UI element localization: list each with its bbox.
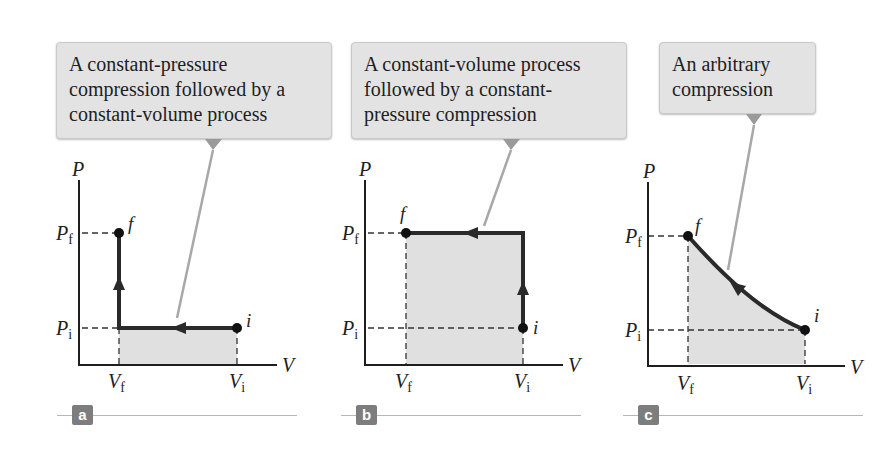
point-i bbox=[800, 325, 810, 335]
pv-diagram-c: P V Pf Pi Vf Vi f i bbox=[0, 0, 887, 451]
tick-vf: Vf bbox=[677, 372, 694, 397]
label-f: f bbox=[695, 215, 703, 236]
label-i: i bbox=[814, 305, 819, 326]
panel-c: An arbitrary compression P V Pf Pi Vf Vi… bbox=[0, 0, 290, 451]
badge-c: c bbox=[638, 405, 659, 425]
tick-vi: Vi bbox=[796, 372, 812, 397]
callout-pointer-tip bbox=[746, 114, 762, 125]
callout-pointer-line bbox=[728, 125, 754, 270]
tick-pf: Pf bbox=[624, 225, 642, 250]
point-f bbox=[683, 231, 693, 241]
axis-label-p: P bbox=[642, 160, 655, 182]
badge-row-c: c bbox=[623, 405, 863, 425]
tick-pi: Pi bbox=[624, 319, 641, 344]
axis-label-v: V bbox=[850, 356, 865, 378]
